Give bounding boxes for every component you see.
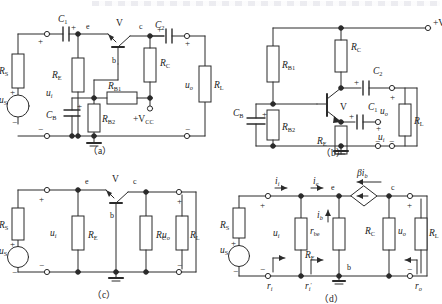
sign-ui-minus-c: − bbox=[39, 260, 44, 270]
sign-uo-minus-c: − bbox=[177, 260, 182, 270]
transistor-v-b: V bbox=[340, 102, 347, 112]
resistor-rl-b: RL bbox=[413, 116, 424, 127]
panel-d: ii ie ib βib e c b RS uS + − ui RE rbe R… bbox=[221, 160, 442, 304]
sign-c2-plus-b: + bbox=[354, 77, 359, 87]
supply-vcc-a: +VCC bbox=[133, 114, 154, 125]
resistor-rc-a: RC bbox=[159, 58, 170, 69]
resistor-rl-d: RL bbox=[428, 228, 439, 239]
node-b-a: b bbox=[112, 56, 116, 65]
transistor-v-a: V bbox=[116, 18, 123, 28]
current-ib-d: ib bbox=[317, 210, 323, 221]
source-us-a: uS bbox=[0, 95, 8, 106]
sign-us-minus-c: − bbox=[12, 267, 17, 277]
figure-sheet: C1 + + e V c b RS RE RC RL RB1 RB2 CB + … bbox=[0, 0, 442, 304]
node-c-c: c bbox=[133, 177, 137, 186]
supply-vcc-b: +VCC bbox=[433, 18, 442, 29]
resistor-rbe-d: rbe bbox=[310, 226, 320, 237]
node-e-c: e bbox=[85, 177, 89, 186]
sign-us-plus-d: + bbox=[231, 238, 236, 248]
sign-uo-plus-d: + bbox=[407, 200, 412, 210]
label-c1: C1 bbox=[58, 14, 68, 25]
resistor-rc-d: RC bbox=[364, 226, 375, 237]
current-ie-d: ie bbox=[313, 176, 319, 187]
sign-ui-plus-c: + bbox=[39, 194, 44, 204]
resistor-re-d: RE bbox=[304, 250, 315, 261]
voltage-ui-c: ui bbox=[50, 228, 57, 239]
sign-cb-plus: + bbox=[77, 101, 82, 111]
source-us-c: uS bbox=[0, 246, 8, 257]
output-resistance-ro-d: ro bbox=[415, 281, 422, 292]
sign-uo-plus-b: + bbox=[390, 92, 395, 102]
node-b-d: b bbox=[347, 263, 351, 272]
sign-c1-plus-b: + bbox=[349, 111, 354, 121]
sign-us-minus-d: − bbox=[233, 266, 238, 276]
sign-out-minus: − bbox=[185, 124, 190, 134]
transistor-v-c: V bbox=[112, 174, 119, 184]
voltage-uo-d: uo bbox=[398, 226, 406, 237]
capacitor-c2-b: C2 bbox=[373, 66, 383, 77]
node-c-a: c bbox=[139, 22, 143, 31]
sign-c2-plus: + bbox=[157, 24, 162, 34]
sign-ui-plus-b: + bbox=[376, 123, 381, 133]
capacitor-c1-b: C1 bbox=[368, 102, 378, 113]
resistor-rc-b: RC bbox=[350, 42, 361, 53]
resistor-re-c: RE bbox=[87, 230, 98, 241]
caption-d: （d） bbox=[319, 293, 344, 304]
resistor-re-b: RE bbox=[316, 136, 327, 147]
resistor-rb1-b: RB1 bbox=[281, 60, 295, 71]
capacitor-cb-b: CB bbox=[233, 108, 244, 119]
sign-uo-minus-d: − bbox=[407, 264, 412, 274]
current-ii-d: ii bbox=[275, 176, 280, 187]
resistor-rs-c: RS bbox=[0, 220, 9, 231]
sign-us-minus: − bbox=[12, 117, 17, 127]
sign-us-plus: + bbox=[10, 87, 15, 97]
voltage-ui-d: ui bbox=[273, 228, 280, 239]
node-e-d: e bbox=[331, 183, 335, 192]
voltage-ui-a: ui bbox=[46, 88, 53, 99]
node-b-c: b bbox=[110, 211, 114, 220]
resistor-re-a: RE bbox=[51, 70, 62, 81]
resistor-rs-a: RS bbox=[0, 66, 9, 77]
caption-c: （c） bbox=[92, 289, 116, 300]
resistor-rb2-b: RB2 bbox=[281, 122, 295, 133]
panel-a: C1 + + e V c b RS RE RC RL RB1 RB2 CB + … bbox=[0, 6, 221, 156]
sign-ui-plus-d: + bbox=[260, 200, 265, 210]
resistor-rb2-a: RB2 bbox=[101, 114, 115, 125]
sign-cb-plus-b: + bbox=[262, 109, 267, 119]
capacitor-cb-a: CB bbox=[46, 110, 57, 121]
sign-ui-minus-b: − bbox=[375, 136, 380, 146]
input-resistance-ri-d: ri bbox=[267, 281, 273, 292]
panel-b: +VCC RB1 RC C2 + C1 + V CB + RB2 RE RL u… bbox=[221, 6, 442, 156]
node-e-a: e bbox=[86, 22, 90, 31]
voltage-uo-b: uo bbox=[380, 106, 388, 117]
sign-input-plus: + bbox=[38, 36, 43, 46]
source-us-d: uS bbox=[220, 245, 229, 256]
node-c-d: c bbox=[391, 183, 395, 192]
voltage-uo-a: uo bbox=[185, 80, 193, 91]
sign-out-plus: + bbox=[185, 38, 190, 48]
sign-c1-plus: + bbox=[71, 22, 76, 32]
caption-b: （b） bbox=[321, 147, 346, 158]
panel-c: e V c b RS uS + − ui RE RC RL uo + − + −… bbox=[0, 160, 221, 304]
sign-us-plus-c: + bbox=[10, 239, 15, 249]
input-resistance-ri-prime-d: ri′ bbox=[305, 281, 312, 292]
resistor-rl-c: RL bbox=[189, 230, 200, 241]
sign-ui-minus-d: − bbox=[260, 264, 265, 274]
sign-uo-plus-c: + bbox=[177, 196, 182, 206]
sign-input-minus: − bbox=[38, 124, 43, 134]
resistor-rb1-a: RB1 bbox=[107, 81, 121, 92]
voltage-uo-label-c: uo bbox=[162, 230, 170, 241]
sign-uo-minus-b: − bbox=[389, 136, 394, 146]
dependent-source-beta-ib: βib bbox=[356, 168, 368, 179]
caption-a: （a） bbox=[88, 145, 112, 156]
resistor-rs-d: RS bbox=[219, 220, 230, 231]
